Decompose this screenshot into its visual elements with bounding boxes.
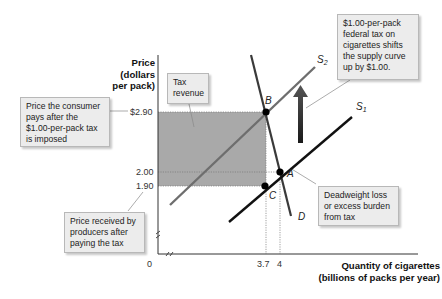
tax-revenue-callout: Tax revenue (167, 73, 209, 104)
consumer-price-callout: Price the consumer pays after the $1.00-… (20, 97, 110, 147)
y-tick-290: $2.90 (130, 107, 153, 117)
point-c (261, 182, 268, 189)
tax-shift-callout: $1.00-per-pack federal tax on cigarettes… (337, 14, 419, 80)
s1-label: S1 (356, 102, 367, 115)
x-axis-title: Quantity of cigarettes (billions of pack… (290, 260, 440, 283)
y-axis-title: Price (dollars per pack) (110, 57, 155, 92)
deadweight-loss-callout: Deadweight loss or excess burden from ta… (318, 186, 399, 226)
y-tick-190: 1.90 (136, 181, 154, 191)
x-tick-4: 4 (277, 259, 282, 269)
point-c-label: C (269, 191, 276, 201)
shift-up-arrow-icon (293, 85, 308, 143)
x-axis-title-line2: (billions of packs per year) (290, 272, 440, 284)
x-axis-title-line1: Quantity of cigarettes (290, 260, 440, 272)
y-tick-200: 2.00 (136, 167, 154, 177)
point-b-label: B (265, 96, 272, 106)
point-a (276, 168, 283, 175)
d-label: D (298, 212, 305, 222)
x-tick-origin: 0 (147, 259, 152, 269)
y-axis-title-line1: Price (110, 57, 155, 69)
s2-label: S2 (317, 55, 328, 68)
y-axis-title-line3: per pack) (110, 80, 155, 92)
tax-revenue-area (158, 112, 266, 186)
x-tick-3-7: 3.7 (257, 259, 270, 269)
point-b (262, 108, 269, 115)
point-a-label: A (287, 169, 294, 179)
producer-price-callout: Price received by producers after paying… (64, 212, 145, 253)
y-axis-title-line2: (dollars (110, 69, 155, 81)
